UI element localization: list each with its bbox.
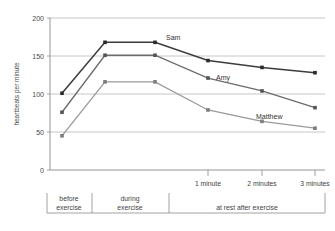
bracket-label-before-line2: exercise	[56, 204, 82, 211]
y-axis-title: heartbeats per minute	[13, 62, 21, 126]
data-point	[153, 53, 157, 57]
y-axis-label-200: 200	[32, 15, 44, 22]
bracket-label-during-line1: during	[121, 195, 140, 203]
chart-container: 200 150 100 50 0 heartbeats per minute	[0, 0, 335, 231]
series-label-amy: Amy	[216, 74, 231, 82]
data-point	[60, 134, 64, 138]
bracket-label-before-line1: before	[59, 195, 78, 202]
data-point	[313, 106, 317, 110]
heart-rate-line-chart: 200 150 100 50 0 heartbeats per minute	[0, 0, 335, 231]
data-point	[103, 41, 107, 45]
data-point	[60, 110, 64, 114]
y-axis-label-100: 100	[32, 91, 44, 98]
data-point	[260, 66, 264, 70]
x-label-1-minute: 1 minute	[195, 180, 221, 187]
data-point	[313, 71, 317, 75]
data-point	[313, 126, 317, 130]
data-point	[206, 59, 210, 63]
y-axis-label-0: 0	[40, 167, 44, 174]
data-point	[260, 120, 264, 124]
y-axis-label-50: 50	[36, 129, 44, 136]
data-point	[260, 89, 264, 93]
data-point	[153, 41, 157, 45]
series-label-sam: Sam	[166, 34, 181, 41]
series-label-matthew: Matthew	[256, 113, 283, 120]
bracket-label-during-line2: exercise	[117, 204, 143, 211]
data-point	[103, 53, 107, 57]
y-axis-label-150: 150	[32, 53, 44, 60]
data-point	[153, 80, 157, 84]
data-point	[60, 91, 64, 95]
x-label-2-minutes: 2 minutes	[247, 180, 277, 187]
data-point	[206, 108, 210, 112]
data-point	[206, 76, 210, 80]
bracket-label-rest: at rest after exercise	[216, 204, 278, 211]
x-label-3-minutes: 3 minutes	[300, 180, 330, 187]
data-point	[103, 80, 107, 84]
